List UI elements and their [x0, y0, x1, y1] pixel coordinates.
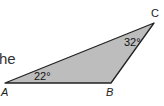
angle-a-label: 22°: [34, 70, 51, 82]
vertex-c-label: C: [151, 7, 159, 19]
vertex-b-label: B: [106, 86, 113, 98]
vertex-a-label: A: [0, 86, 8, 98]
triangle-abc: [5, 23, 154, 83]
angle-c-label: 32°: [124, 36, 141, 48]
triangle-diagram: 22° 32° A B C: [0, 0, 164, 106]
